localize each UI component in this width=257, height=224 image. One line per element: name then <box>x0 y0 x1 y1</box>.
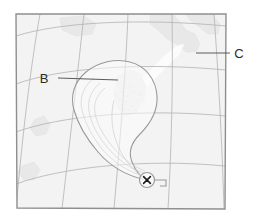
storm-position-marker <box>140 173 155 188</box>
annotation-b-label: B <box>40 71 49 86</box>
cyclone-track-figure: B C <box>0 0 257 224</box>
map-canvas: B C <box>0 0 257 224</box>
annotation-c-label: C <box>234 46 243 61</box>
